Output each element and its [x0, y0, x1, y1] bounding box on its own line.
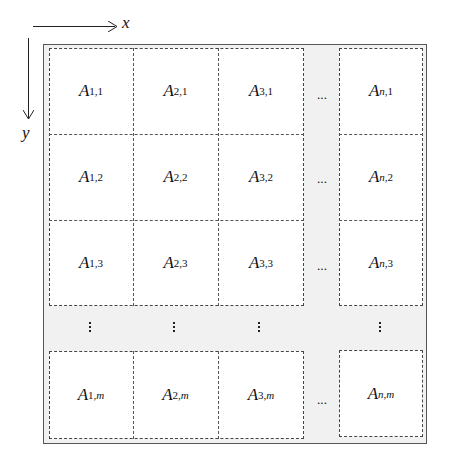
cell-1-3: A1,3 [49, 220, 133, 306]
horizontal-ellipsis: ··· [304, 261, 339, 277]
vertical-ellipsis-icon [172, 322, 176, 334]
y-axis-arrow [28, 38, 29, 118]
cell-n-1: An,1 [339, 48, 423, 134]
x-axis-arrow [33, 26, 115, 27]
cell-2-m: A2,m [133, 351, 218, 439]
vertical-ellipsis-icon [257, 322, 261, 334]
horizontal-ellipsis: ··· [304, 90, 339, 106]
cell-3-1: A3,1 [218, 48, 304, 134]
cell-n-m: An,m [339, 350, 423, 437]
vertical-ellipsis-icon [88, 322, 92, 334]
cell-1-1: A1,1 [49, 48, 133, 134]
cell-3-m: A3,m [218, 351, 304, 439]
x-axis-arrowhead-icon [108, 21, 118, 32]
cell-2-1: A2,1 [133, 48, 218, 134]
y-axis-label: y [22, 123, 30, 143]
cell-n-3: An,3 [339, 220, 423, 306]
y-axis-arrowhead-icon [23, 110, 34, 120]
cell-3-3: A3,3 [218, 220, 304, 306]
horizontal-ellipsis: ··· [304, 174, 339, 190]
cell-1-m: A1,m [49, 351, 133, 439]
cell-2-3: A2,3 [133, 220, 218, 306]
cell-1-2: A1,2 [49, 134, 133, 220]
cell-3-2: A3,2 [218, 134, 304, 220]
vertical-ellipsis-icon [378, 322, 382, 334]
cell-2-2: A2,2 [133, 134, 218, 220]
x-axis-label: x [122, 13, 130, 33]
horizontal-ellipsis: ··· [304, 395, 339, 411]
cell-n-2: An,2 [339, 134, 423, 220]
